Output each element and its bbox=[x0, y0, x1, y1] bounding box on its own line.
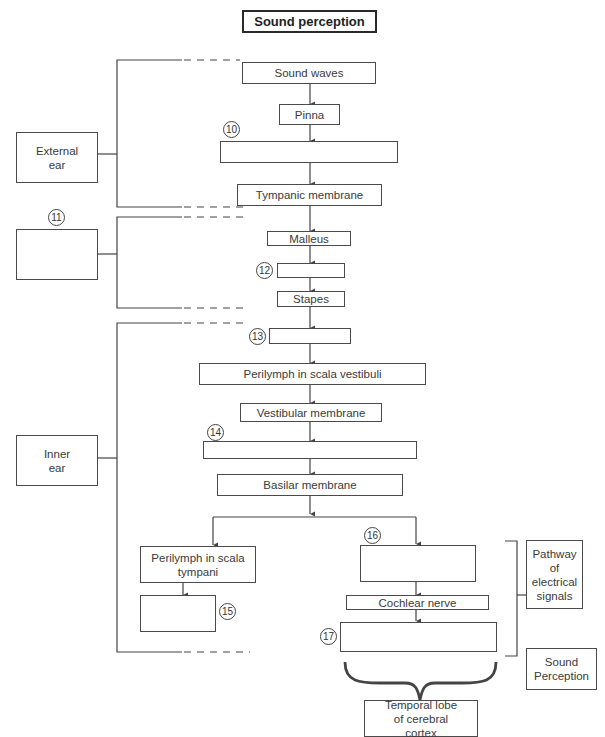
tympanic-membrane-box: Tympanic membrane bbox=[237, 184, 382, 206]
blank-box-14[interactable] bbox=[203, 441, 417, 459]
perilymph-vestibuli-box: Perilymph in scala vestibuli bbox=[199, 363, 426, 385]
vestibular-membrane-box: Vestibular membrane bbox=[240, 403, 382, 422]
number-14-icon: 14 bbox=[207, 424, 224, 441]
diagram-title: Sound perception bbox=[242, 10, 377, 33]
number-12-icon: 12 bbox=[256, 262, 273, 279]
perilymph-tympani-box: Perilymph in scala tympani bbox=[140, 546, 256, 583]
number-15-icon: 15 bbox=[219, 603, 236, 620]
blank-box-12[interactable] bbox=[277, 263, 345, 278]
blank-box-17[interactable] bbox=[340, 622, 497, 652]
basilar-membrane-box: Basilar membrane bbox=[217, 474, 403, 496]
number-16-icon: 16 bbox=[364, 527, 381, 544]
blank-box-16[interactable] bbox=[360, 545, 476, 582]
sound-waves-box: Sound waves bbox=[242, 62, 376, 84]
number-11-icon: 11 bbox=[48, 209, 65, 226]
blank-box-11[interactable] bbox=[16, 229, 98, 280]
inner-ear-box: Inner ear bbox=[16, 435, 98, 486]
blank-box-10[interactable] bbox=[220, 141, 398, 163]
blank-box-15[interactable] bbox=[140, 595, 216, 632]
malleus-box: Malleus bbox=[267, 231, 351, 246]
sound-perception-label-box: Sound Perception bbox=[526, 648, 597, 690]
pinna-box: Pinna bbox=[279, 104, 340, 125]
blank-box-13[interactable] bbox=[269, 328, 351, 344]
temporal-lobe-box: Temporal lobe of cerebral cortex bbox=[364, 700, 478, 737]
number-13-icon: 13 bbox=[249, 328, 266, 345]
external-ear-box: External ear bbox=[16, 132, 98, 183]
cochlear-nerve-box: Cochlear nerve bbox=[346, 595, 489, 610]
number-17-icon: 17 bbox=[320, 628, 337, 645]
pathway-label-box: Pathway of electrical signals bbox=[526, 540, 583, 609]
stapes-box: Stapes bbox=[277, 291, 345, 307]
number-10-icon: 10 bbox=[223, 121, 240, 138]
